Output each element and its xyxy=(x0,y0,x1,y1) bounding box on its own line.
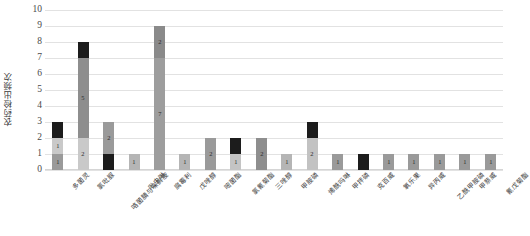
x-axis-tick-labels: 多菌灵氯吡脲咯菌腈与咪鲜胺吡虫啉腐霉利戊唑醇嘧菌酯氯氰菊酯三唑醇甲胺磷烯酰吗啉甲… xyxy=(45,172,503,234)
bar-column[interactable]: 1 xyxy=(230,138,241,170)
bar-segment: 1 xyxy=(408,154,419,170)
y-axis-tick: 0 xyxy=(37,165,42,175)
bar-value-label: 7 xyxy=(158,111,161,117)
y-axis-tick: 5 xyxy=(37,85,42,95)
bar-segment xyxy=(103,154,114,170)
bar-segment: 1 xyxy=(434,154,445,170)
bar-column[interactable]: 1 xyxy=(459,154,470,170)
bar-value-label: 2 xyxy=(158,39,161,45)
bar-segment: 1 xyxy=(459,154,470,170)
x-axis-tick: 氧乐果 xyxy=(402,172,422,192)
bar-value-label: 1 xyxy=(412,159,415,165)
bar-segment: 2 xyxy=(256,138,267,170)
bar-value-label: 2 xyxy=(82,151,85,157)
bar-value-label: 1 xyxy=(132,159,135,165)
x-axis-tick: 克百威 xyxy=(376,172,396,192)
bar-value-label: 5 xyxy=(82,95,85,101)
x-axis-tick: 戊唑醇 xyxy=(198,172,218,192)
y-axis-title: 农药检出频次 xyxy=(2,38,16,160)
bar-column[interactable]: 1 xyxy=(179,154,190,170)
bar-segment: 2 xyxy=(307,138,318,170)
y-axis-tick: 9 xyxy=(37,21,42,31)
bar-column[interactable] xyxy=(358,154,369,170)
bar-segment: 1 xyxy=(52,138,63,154)
bar-segment: 1 xyxy=(230,154,241,170)
bar-value-label: 1 xyxy=(463,159,466,165)
x-axis-tick: 多菌灵 xyxy=(71,172,91,192)
bar-segment: 1 xyxy=(52,154,63,170)
y-axis-tick: 4 xyxy=(37,101,42,111)
bar-value-label: 1 xyxy=(438,159,441,165)
y-axis-tick: 6 xyxy=(37,69,42,79)
bar-segment xyxy=(52,122,63,138)
bar-segment: 2 xyxy=(103,122,114,154)
bar-column[interactable]: 2 xyxy=(256,138,267,170)
bar-segment xyxy=(358,154,369,170)
bar-value-label: 1 xyxy=(387,159,390,165)
bar-value-label: 2 xyxy=(107,135,110,141)
bar-column[interactable]: 2 xyxy=(205,138,216,170)
bar-segment: 2 xyxy=(154,26,165,58)
y-axis-tick: 2 xyxy=(37,133,42,143)
x-axis-tick: 异丙威 xyxy=(427,172,447,192)
bar-column[interactable]: 1 xyxy=(281,154,292,170)
bar-segment xyxy=(307,122,318,138)
bar-value-label: 1 xyxy=(234,159,237,165)
bar-column[interactable]: 25 xyxy=(78,42,89,170)
x-axis-tick: 三唑醇 xyxy=(274,172,294,192)
bar-segment: 2 xyxy=(205,138,216,170)
x-axis-tick: 腐霉利 xyxy=(173,172,193,192)
y-axis-tick: 3 xyxy=(37,117,42,127)
bar-column[interactable]: 1 xyxy=(408,154,419,170)
bar-segment: 5 xyxy=(78,58,89,138)
x-axis-tick: 嘧菌酯 xyxy=(224,172,244,192)
bar-segment: 1 xyxy=(485,154,496,170)
bar-value-label: 1 xyxy=(56,143,59,149)
x-axis-tick: 烯酰吗啉 xyxy=(327,172,352,197)
y-axis-tick: 10 xyxy=(33,5,43,15)
bar-value-label: 2 xyxy=(311,151,314,157)
bar-segment: 1 xyxy=(129,154,140,170)
y-axis-tick: 1 xyxy=(37,149,42,159)
bar-value-label: 1 xyxy=(285,159,288,165)
bar-column[interactable]: 2 xyxy=(307,122,318,170)
gridline xyxy=(45,170,503,171)
x-axis-tick: 甲胺磷 xyxy=(300,172,320,192)
bar-segment: 1 xyxy=(179,154,190,170)
bar-column[interactable]: 2 xyxy=(103,122,114,170)
bar-segment: 1 xyxy=(281,154,292,170)
plot-area: 11252172121212111111 xyxy=(45,10,503,170)
x-axis-tick: 氰戊菊酯 xyxy=(505,172,530,197)
bar-value-label: 1 xyxy=(56,159,59,165)
bar-segment: 7 xyxy=(154,58,165,170)
bar-value-label: 1 xyxy=(489,159,492,165)
y-axis-tick-labels: 012345678910 xyxy=(22,10,42,170)
bar-column[interactable]: 1 xyxy=(383,154,394,170)
y-axis-tick: 7 xyxy=(37,53,42,63)
bar-value-label: 2 xyxy=(209,151,212,157)
y-axis-tick: 8 xyxy=(37,37,42,47)
bar-value-label: 2 xyxy=(260,151,263,157)
bar-segment: 1 xyxy=(383,154,394,170)
bar-column[interactable]: 1 xyxy=(332,154,343,170)
bar-column[interactable]: 1 xyxy=(129,154,140,170)
bar-series-group: 11252172121212111111 xyxy=(45,10,503,170)
x-axis-tick: 甲拌磷 xyxy=(351,172,371,192)
bar-column[interactable]: 1 xyxy=(434,154,445,170)
bar-column[interactable]: 72 xyxy=(154,26,165,170)
bar-segment xyxy=(78,42,89,58)
bar-column[interactable]: 11 xyxy=(52,122,63,170)
x-axis-tick: 氯吡脲 xyxy=(96,172,116,192)
bar-segment: 2 xyxy=(78,138,89,170)
bar-value-label: 1 xyxy=(183,159,186,165)
x-axis-tick: 氯氰菊酯 xyxy=(251,172,276,197)
bar-value-label: 1 xyxy=(336,159,339,165)
bar-segment: 1 xyxy=(332,154,343,170)
bar-column[interactable]: 1 xyxy=(485,154,496,170)
bar-segment xyxy=(230,138,241,154)
